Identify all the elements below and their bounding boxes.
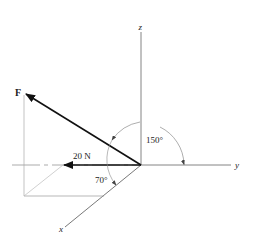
angle-150-label: 150° [146, 135, 164, 145]
component-magnitude-label: 20 N [73, 151, 91, 161]
force-label: F [15, 87, 21, 98]
construction-diagonal-line [24, 165, 63, 196]
angle-70-label: 70° [95, 175, 108, 185]
z-axis-label: z [138, 22, 143, 32]
angle-arc-150 [160, 127, 184, 164]
force-diagram: z y x F 20 N 150° 70° [0, 0, 254, 241]
angle-arc-150-left [112, 122, 140, 140]
x-axis-label: x [58, 224, 63, 234]
y-axis-label: y [234, 160, 239, 170]
